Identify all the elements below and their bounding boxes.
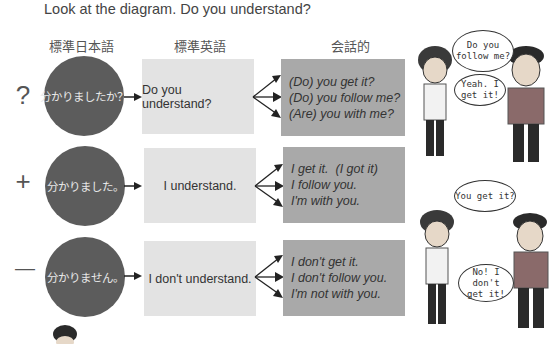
japanese-phrase: 分かりません。 [47, 269, 124, 285]
branch-arrows-icon [253, 74, 283, 120]
standard-english-box: I don't understand. [144, 241, 256, 316]
japanese-circle: 分かりました。 [45, 146, 125, 226]
speech-text: Yeah. I get it! [455, 79, 505, 101]
speech-bubble-answer: Yeah. I get it! [454, 74, 506, 106]
comic-top: Do you follow me? Yeah. I get it! [408, 30, 558, 170]
arrow-icon [124, 92, 144, 102]
conversational-phrase: (Are) you with me? [289, 106, 405, 122]
minus-symbol: — [10, 257, 40, 280]
conversational-box: I get it. (I got it) I follow you. I'm w… [283, 147, 405, 223]
english-phrase: Do you understand? [142, 83, 254, 111]
conversational-phrase: (Do) you get it? [289, 74, 405, 90]
japanese-circle: 分かりません。 [45, 237, 125, 317]
standard-english-box: Do you understand? [142, 59, 254, 134]
branch-arrows-icon [255, 254, 285, 300]
standard-english-box: I understand. [144, 148, 256, 223]
conversational-box: I don't get it. I don't follow you. I'm … [283, 240, 405, 316]
speech-text: You get it? [455, 191, 515, 202]
question-symbol: ? [8, 80, 38, 111]
japanese-phrase: 分かりました。 [47, 178, 124, 194]
speech-bubble-question: Do you follow me? [452, 30, 514, 72]
conversational-box: (Do) you get it? (Do) you follow me? (Ar… [281, 59, 405, 136]
japanese-circle: 分かりましたか？ [44, 56, 124, 136]
conversational-phrase: I'm with you. [291, 193, 405, 209]
speech-text: No! I don't get it! [464, 267, 508, 300]
conversational-phrase: I'm not with you. [291, 286, 405, 302]
arrow-icon [124, 271, 144, 281]
conversational-phrase: I don't follow you. [291, 270, 405, 286]
english-phrase: I don't understand. [148, 272, 251, 286]
speech-bubble-question: You get it? [454, 180, 516, 212]
boy-character-icon [504, 208, 558, 330]
column-header-conversational: 会話的 [300, 36, 400, 55]
boy-character-partial-icon [52, 324, 78, 344]
speech-text: Do you follow me? [453, 40, 513, 62]
conversational-phrase: (Do) you follow me? [289, 90, 405, 106]
arrow-icon [124, 181, 144, 191]
plus-symbol: + [8, 166, 38, 197]
english-phrase: I understand. [164, 179, 237, 193]
speech-bubble-answer: No! I don't get it! [458, 264, 514, 302]
branch-arrows-icon [255, 163, 285, 209]
conversational-phrase: I get it. (I got it) [291, 161, 405, 177]
instruction-text: Look at the diagram. Do you understand? [44, 1, 311, 17]
column-header-standard-english: 標準英語 [150, 36, 250, 55]
girl-character-icon [412, 208, 462, 332]
comic-bottom: You get it? No! I don't get it! [408, 180, 558, 330]
column-header-standard-japanese: 標準日本語 [36, 36, 126, 55]
conversational-phrase: I don't get it. [291, 254, 405, 270]
japanese-phrase: 分かりましたか？ [40, 88, 128, 104]
conversational-phrase: I follow you. [291, 177, 405, 193]
